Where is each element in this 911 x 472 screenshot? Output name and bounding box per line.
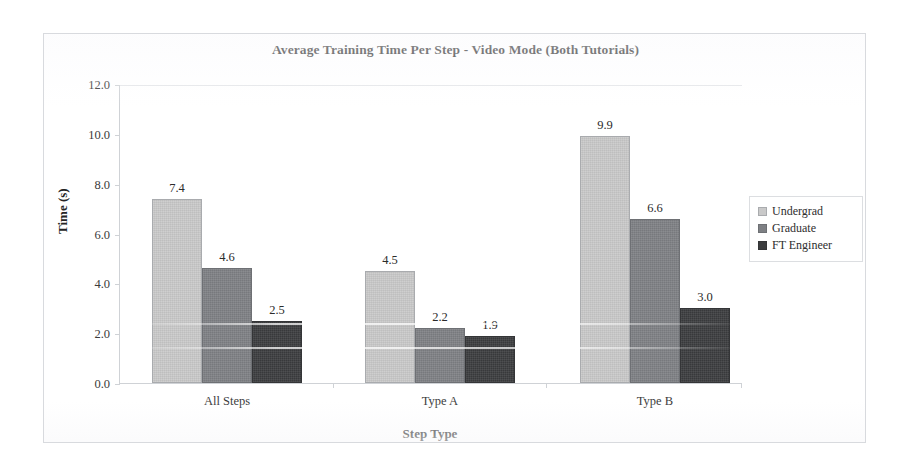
figure-frame: Average Training Time Per Step - Video M… xyxy=(43,33,866,443)
x-axis-tick xyxy=(741,383,742,388)
bar-value-label: 4.6 xyxy=(197,250,257,265)
x-axis-category-label: Type A xyxy=(360,394,520,409)
y-axis-tick-label: 4.0 xyxy=(94,277,110,292)
legend-swatch-icon xyxy=(758,241,767,250)
bar-ft-engineer-type-a[interactable] xyxy=(465,336,515,383)
y-axis-tick xyxy=(115,384,120,385)
x-axis-category-label: Type B xyxy=(575,394,735,409)
chart-legend: UndergradGraduateFT Engineer xyxy=(749,196,863,262)
legend-label: FT Engineer xyxy=(772,238,832,253)
bar-value-label: 4.5 xyxy=(360,253,420,268)
bar-graduate-type-b[interactable] xyxy=(630,219,680,383)
plot-inner: 0.02.04.06.08.010.012.07.44.62.5All Step… xyxy=(120,85,741,383)
bar-value-label: 1.9 xyxy=(460,318,520,333)
y-axis-tick xyxy=(115,235,120,236)
legend-swatch-icon xyxy=(758,207,767,216)
legend-item-graduate[interactable]: Graduate xyxy=(758,220,856,237)
legend-swatch-icon xyxy=(758,224,767,233)
x-axis-tick xyxy=(333,383,334,388)
y-axis-tick-label: 8.0 xyxy=(94,177,110,192)
chart-title: Average Training Time Per Step - Video M… xyxy=(44,42,867,58)
y-axis-tick-label: 6.0 xyxy=(94,227,110,242)
bar-undergrad-type-b[interactable] xyxy=(580,136,630,383)
bar-ft-engineer-type-b[interactable] xyxy=(680,308,730,383)
bar-value-label: 9.9 xyxy=(575,118,635,133)
y-axis-top-rule xyxy=(120,85,742,86)
y-axis-tick xyxy=(115,135,120,136)
legend-item-undergrad[interactable]: Undergrad xyxy=(758,203,856,220)
y-axis-tick-label: 2.0 xyxy=(94,327,110,342)
legend-label: Graduate xyxy=(772,221,816,236)
y-axis-tick xyxy=(115,185,120,186)
bar-ft-engineer-all-steps[interactable] xyxy=(252,321,302,383)
bar-value-label: 3.0 xyxy=(675,290,735,305)
bar-graduate-type-a[interactable] xyxy=(415,328,465,383)
bar-undergrad-all-steps[interactable] xyxy=(152,199,202,383)
plot-area: 0.02.04.06.08.010.012.07.44.62.5All Step… xyxy=(119,85,741,384)
y-axis-tick-label: 10.0 xyxy=(88,127,110,142)
legend-label: Undergrad xyxy=(772,204,823,219)
x-axis-title: Step Type xyxy=(119,426,741,442)
y-axis-tick-label: 0.0 xyxy=(94,377,110,392)
y-axis-tick xyxy=(115,284,120,285)
bar-graduate-all-steps[interactable] xyxy=(202,268,252,383)
x-axis-tick xyxy=(546,383,547,388)
bar-value-label: 2.5 xyxy=(247,303,307,318)
legend-item-ft-engineer[interactable]: FT Engineer xyxy=(758,237,856,254)
x-axis-category-label: All Steps xyxy=(147,394,307,409)
y-axis-title: Time (s) xyxy=(55,188,71,234)
y-axis-tick xyxy=(115,334,120,335)
bar-value-label: 6.6 xyxy=(625,201,685,216)
bar-undergrad-type-a[interactable] xyxy=(365,271,415,383)
bar-value-label: 7.4 xyxy=(147,181,207,196)
y-axis-tick-label: 12.0 xyxy=(88,78,110,93)
